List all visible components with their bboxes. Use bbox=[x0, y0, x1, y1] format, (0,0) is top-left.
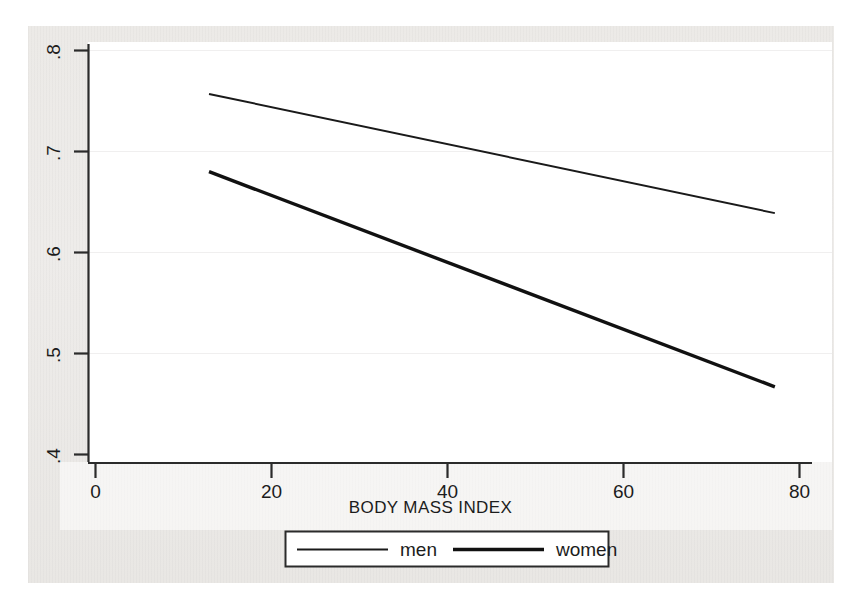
series-line-women bbox=[209, 172, 775, 387]
chart-canvas bbox=[0, 0, 861, 613]
y-tick-label-0.7: .7 bbox=[43, 133, 65, 173]
y-tick-label-0.4: .4 bbox=[43, 436, 65, 476]
y-tick-label-0.5: .5 bbox=[43, 335, 65, 375]
y-tick-label-0.8: .8 bbox=[43, 32, 65, 72]
legend-label-men: men bbox=[400, 539, 437, 561]
series-line-men bbox=[209, 94, 775, 213]
x-axis-title: BODY MASS INDEX bbox=[0, 498, 861, 518]
y-axis-ticks bbox=[74, 51, 88, 455]
legend-label-women: women bbox=[556, 539, 617, 561]
y-tick-label-0.6: .6 bbox=[43, 234, 65, 274]
x-axis-ticks bbox=[96, 463, 800, 478]
